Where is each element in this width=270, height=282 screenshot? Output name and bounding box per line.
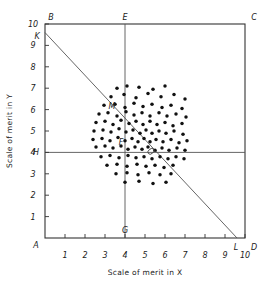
annotation-C: C	[251, 13, 257, 22]
scatter-point	[109, 95, 113, 99]
annotation-B: B	[48, 13, 54, 22]
annotation-A: A	[32, 241, 38, 250]
scatter-point	[164, 181, 168, 185]
annotation-K: K	[34, 32, 40, 41]
scatter-point	[163, 84, 167, 88]
scatter-point	[159, 95, 163, 99]
scatter-point	[167, 149, 171, 153]
scatter-point	[123, 106, 127, 110]
x-tick-label-9: 9	[222, 251, 227, 260]
scatter-point	[140, 111, 144, 115]
scatter-point	[162, 166, 166, 170]
scatter-point	[183, 149, 187, 153]
scatter-point	[146, 92, 150, 96]
scatter-point	[142, 155, 146, 159]
scatter-point	[171, 124, 175, 128]
scatter-point-group	[91, 84, 189, 185]
scatter-point	[137, 85, 141, 89]
x-tick-label-7: 7	[182, 251, 188, 260]
regression-diagonal	[45, 33, 237, 238]
x-axis-title: Scale of merit in X	[108, 268, 183, 277]
x-tick-label-6: 6	[162, 251, 167, 260]
scatter-point	[135, 162, 139, 166]
scatter-point	[153, 163, 157, 167]
scatter-point	[123, 181, 127, 185]
scatter-point	[185, 139, 189, 143]
scatter-point	[171, 163, 175, 167]
x-tick-label-5: 5	[142, 251, 147, 260]
scatter-point	[92, 129, 96, 133]
scatter-point	[111, 146, 115, 150]
scatter-point	[124, 130, 128, 134]
scatter-point	[158, 155, 162, 159]
scatter-point	[134, 156, 138, 160]
scatter-point	[165, 114, 169, 118]
scatter-point	[103, 144, 107, 148]
scatter-point	[146, 145, 150, 149]
scatter-point	[177, 141, 181, 145]
annotation-H: H	[33, 148, 39, 157]
scatter-point	[115, 162, 119, 166]
scatter-point	[131, 128, 135, 132]
annotation-D: D	[251, 243, 257, 252]
scatter-point	[117, 156, 121, 160]
scatter-point	[94, 145, 98, 149]
scatter-point	[106, 111, 110, 115]
scatter-point	[148, 140, 152, 144]
scatter-point	[111, 123, 115, 127]
scatter-point	[134, 120, 138, 124]
scatter-point	[144, 165, 148, 169]
x-tick-label-3: 3	[102, 251, 107, 260]
y-tick-label-2: 2	[30, 191, 35, 200]
y-tick-label-10: 10	[28, 20, 38, 29]
scatter-point	[163, 121, 167, 125]
scatter-point	[108, 154, 112, 158]
scatter-point	[133, 145, 137, 149]
scatter-point	[125, 84, 129, 88]
annotation-F: F	[119, 138, 124, 147]
scatter-point	[147, 171, 151, 175]
scatter-point	[158, 173, 162, 177]
scatter-point	[141, 123, 145, 127]
scatter-point	[122, 93, 126, 97]
annotation-E: E	[122, 13, 128, 22]
scatter-point	[108, 139, 112, 143]
x-tick-label-1: 1	[62, 251, 67, 260]
scatter-point	[155, 123, 159, 127]
y-tick-label-7: 7	[30, 84, 36, 93]
scatter-point	[150, 157, 154, 161]
scatter-point	[161, 140, 165, 144]
y-tick-label-3: 3	[30, 170, 35, 179]
annotation-G: G	[122, 226, 128, 235]
scatter-point	[123, 139, 127, 143]
scatter-point	[169, 104, 173, 108]
scatter-point	[103, 120, 107, 124]
scatter-point	[105, 163, 109, 167]
scatter-point	[164, 131, 168, 135]
scatter-point	[125, 165, 129, 169]
annotation-L: L	[234, 243, 238, 252]
scatter-point	[91, 138, 95, 142]
scatter-point	[130, 137, 134, 141]
scatter-point	[140, 147, 144, 151]
scatter-point	[151, 88, 155, 92]
scatter-point	[134, 96, 138, 100]
scatter-point	[172, 129, 176, 133]
x-tick-label-8: 8	[202, 251, 207, 260]
scatter-point	[97, 112, 101, 116]
scatter-figure: 1234567891012345678910ABCDEGHKLMFScale o…	[0, 0, 270, 282]
scatter-point	[126, 147, 130, 151]
plot-canvas: 1234567891012345678910ABCDEGHKLMFScale o…	[0, 0, 270, 282]
x-tick-label-10: 10	[240, 251, 250, 260]
scatter-point	[174, 155, 178, 159]
scatter-point	[127, 122, 131, 126]
scatter-point	[115, 86, 119, 90]
scatter-point	[99, 155, 103, 159]
scatter-point	[137, 180, 141, 184]
scatter-point	[132, 101, 136, 105]
y-tick-label-9: 9	[30, 41, 35, 50]
scatter-point	[109, 130, 113, 134]
x-tick-label-2: 2	[82, 251, 87, 260]
scatter-point	[132, 113, 136, 117]
scatter-point	[94, 121, 98, 125]
